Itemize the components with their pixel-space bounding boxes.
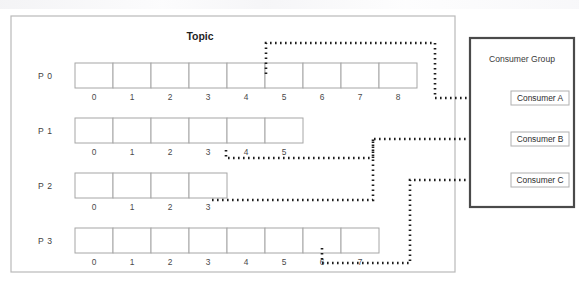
- consumer-item-0[interactable]: Consumer A: [511, 91, 569, 105]
- partition-cell[interactable]: [113, 173, 151, 198]
- partition-label-1: P 1: [38, 126, 53, 136]
- partition-cell[interactable]: [341, 63, 379, 88]
- offset-label: 1: [130, 92, 135, 102]
- consumers-layer: Consumer AConsumer BConsumer C: [511, 91, 569, 187]
- consumer-item-2[interactable]: Consumer C: [511, 173, 569, 187]
- offset-label: 4: [244, 147, 249, 157]
- offset-label: 0: [92, 202, 97, 212]
- partition-cell[interactable]: [341, 228, 379, 253]
- partition-cell[interactable]: [151, 228, 189, 253]
- partition-cell[interactable]: [227, 228, 265, 253]
- consumer-label-0: Consumer A: [517, 93, 563, 103]
- partition-cell[interactable]: [303, 63, 341, 88]
- partition-cell[interactable]: [113, 63, 151, 88]
- partition-cell[interactable]: [265, 63, 303, 88]
- partition-cell[interactable]: [227, 63, 265, 88]
- offset-label: 2: [168, 147, 173, 157]
- partition-cell[interactable]: [113, 228, 151, 253]
- offset-label: 2: [168, 92, 173, 102]
- partition-cell[interactable]: [379, 63, 417, 88]
- offset-label: 4: [244, 257, 249, 267]
- diagram-screen: Topic P 0012345678P 1012345P 20123P 3012…: [0, 0, 579, 287]
- offset-label: 8: [396, 92, 401, 102]
- consumer-label-1: Consumer B: [517, 134, 564, 144]
- partition-cell[interactable]: [75, 173, 113, 198]
- partition-label-2: P 2: [38, 181, 53, 191]
- partition-cell[interactable]: [113, 118, 151, 143]
- offset-label: 1: [130, 147, 135, 157]
- partition-cell[interactable]: [227, 118, 265, 143]
- partition-cell[interactable]: [151, 173, 189, 198]
- partition-cell[interactable]: [75, 228, 113, 253]
- offset-label: 0: [92, 147, 97, 157]
- topic-title: Topic: [186, 30, 213, 42]
- offset-label: 3: [206, 257, 211, 267]
- offset-label: 5: [282, 147, 287, 157]
- partition-cell[interactable]: [151, 118, 189, 143]
- offset-label: 6: [320, 92, 325, 102]
- partition-cell[interactable]: [189, 228, 227, 253]
- partition-cell[interactable]: [189, 118, 227, 143]
- offset-label: 7: [358, 92, 363, 102]
- partition-cell[interactable]: [189, 63, 227, 88]
- partition-cell[interactable]: [75, 63, 113, 88]
- offset-label: 2: [168, 202, 173, 212]
- partition-cell[interactable]: [265, 228, 303, 253]
- partition-label-0: P 0: [38, 71, 53, 81]
- partition-cell[interactable]: [151, 63, 189, 88]
- offset-label: 4: [244, 92, 249, 102]
- consumer-label-2: Consumer C: [516, 175, 563, 185]
- offset-label: 3: [206, 147, 211, 157]
- offset-label: 2: [168, 257, 173, 267]
- offset-label: 0: [92, 92, 97, 102]
- offset-label: 1: [130, 257, 135, 267]
- offset-label: 5: [282, 257, 287, 267]
- partition-label-3: P 3: [38, 236, 53, 246]
- offset-label: 3: [206, 202, 211, 212]
- partition-cell[interactable]: [75, 118, 113, 143]
- consumer-group-title: Consumer Group: [489, 54, 555, 64]
- topic-consumer-group-diagram: Topic P 0012345678P 1012345P 20123P 3012…: [0, 0, 579, 287]
- offset-label: 1: [130, 202, 135, 212]
- partition-cell[interactable]: [265, 118, 303, 143]
- offset-label: 0: [92, 257, 97, 267]
- offset-label: 3: [206, 92, 211, 102]
- partition-cell[interactable]: [189, 173, 227, 198]
- offset-label: 5: [282, 92, 287, 102]
- consumer-item-1[interactable]: Consumer B: [511, 132, 569, 146]
